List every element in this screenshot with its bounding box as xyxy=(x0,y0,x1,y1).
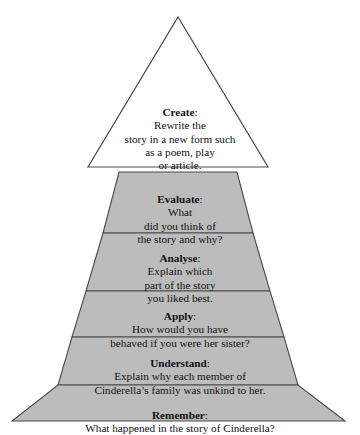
pyramid-level-analyse-term: Analyse xyxy=(159,252,197,264)
pyramid-level-remember-separator: : xyxy=(205,409,208,421)
pyramid-level-create-separator: : xyxy=(194,106,197,118)
pyramid-level-evaluate-term: Evaluate xyxy=(157,193,199,205)
pyramid-level-understand-separator: : xyxy=(207,357,210,369)
pyramid-level-analyse-label: Analyse: Explain which part of the story… xyxy=(78,239,282,305)
pyramid-level-remember-term: Remember xyxy=(152,409,205,421)
bloom-taxonomy-pyramid-diagram: Create: Rewrite the story in a new form … xyxy=(0,0,360,435)
pyramid-level-create-term: Create xyxy=(162,106,194,118)
pyramid-level-analyse-separator: : xyxy=(197,252,200,264)
pyramid-level-apply-term: Apply xyxy=(164,310,193,322)
pyramid-level-evaluate-separator: : xyxy=(200,193,203,205)
pyramid-level-understand-prompt: Explain why each member of Cinderella’s … xyxy=(95,370,266,395)
pyramid-level-apply-label: Apply: How would you have behaved if you… xyxy=(48,297,312,350)
pyramid-level-remember-label: Remember: What happened in the story of … xyxy=(14,396,346,435)
pyramid-level-evaluate-label: Evaluate: What did you think of the stor… xyxy=(96,180,264,246)
pyramid-level-create-prompt: Rewrite the story in a new form such as … xyxy=(125,119,236,171)
pyramid-level-remember-prompt: What happened in the story of Cinderella… xyxy=(85,422,275,434)
pyramid-level-understand-label: Understand: Explain why each member of C… xyxy=(28,344,332,397)
pyramid-level-understand-term: Understand xyxy=(150,357,207,369)
pyramid-level-apply-separator: : xyxy=(193,310,196,322)
pyramid-level-create-label: Create: Rewrite the story in a new form … xyxy=(78,93,282,172)
